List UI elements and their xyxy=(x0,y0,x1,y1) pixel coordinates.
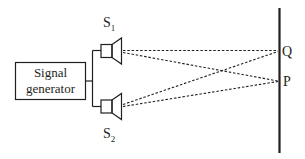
path-s2-q xyxy=(123,52,278,105)
generator-label-line1: Signal xyxy=(34,65,68,80)
speaker-s2-icon xyxy=(101,94,122,120)
generator-label-line2: generator xyxy=(26,81,76,96)
point-label-p: P xyxy=(283,74,291,89)
signal-generator: Signal generator xyxy=(16,63,86,100)
wave-paths xyxy=(123,51,278,107)
speaker-s1-icon xyxy=(101,38,122,64)
path-s1-p xyxy=(123,53,278,82)
path-s2-p xyxy=(123,82,278,107)
source-label-s2: S2 xyxy=(103,126,115,144)
point-label-q: Q xyxy=(282,44,292,59)
source-label-s1: S1 xyxy=(103,15,115,33)
interference-diagram: Signal generator S1 S2 Q P xyxy=(0,0,305,159)
wires xyxy=(86,51,102,107)
